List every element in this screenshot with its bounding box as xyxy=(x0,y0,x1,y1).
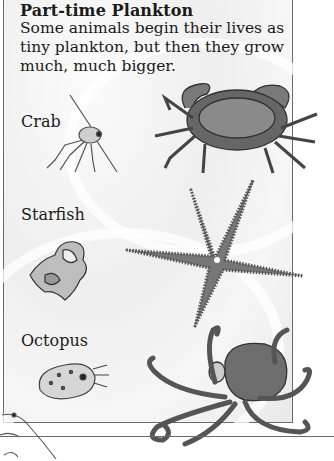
shrimp-icon xyxy=(0,405,60,461)
intro-paragraph: Some animals begin their lives as tiny p… xyxy=(20,19,290,76)
section-heading: Part-time Plankton xyxy=(20,1,193,20)
crab-adult-icon xyxy=(145,78,320,178)
starfish-adult-icon xyxy=(125,178,305,328)
octopus-adult-icon xyxy=(135,322,320,452)
starfish-larva-icon xyxy=(25,230,95,305)
label-starfish: Starfish xyxy=(21,205,85,224)
label-octopus: Octopus xyxy=(21,331,88,350)
page-divider xyxy=(0,436,334,437)
crab-larva-icon xyxy=(25,90,120,175)
octopus-larva-icon xyxy=(35,355,110,405)
